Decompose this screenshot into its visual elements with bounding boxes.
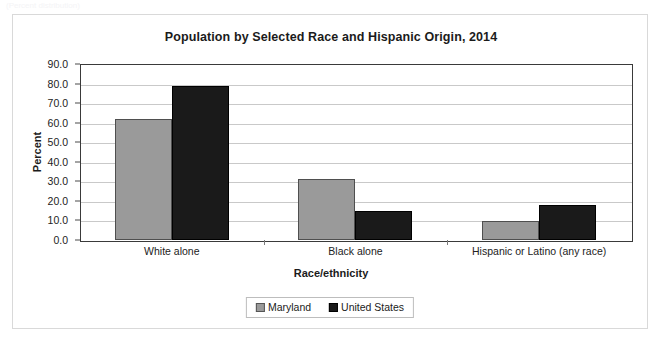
chart-card: Population by Selected Race and Hispanic… [12,14,648,329]
bar-maryland-black-alone[interactable] [298,179,355,240]
legend-swatch-united-states-icon [329,303,338,312]
y-axis-tick-labels: 90.080.070.060.050.040.030.020.010.00.0 [13,64,75,240]
chart-legend: Maryland United States [246,297,414,318]
y-axis-tick-label: 0.0 [53,234,68,246]
y-axis-tick-label: 60.0 [48,117,68,129]
bar-united-states-white-alone[interactable] [172,86,229,240]
x-axis-title: Race/ethnicity [13,267,649,279]
y-axis-tick-label: 70.0 [48,97,68,109]
x-axis-tick-label: Black alone [328,245,382,257]
legend-label-united-states: United States [341,301,404,313]
x-axis-tick-labels: White aloneBlack aloneHispanic or Latino… [80,245,631,261]
bars-layer [80,64,631,240]
bar-group [447,64,631,240]
legend-label-maryland: Maryland [268,301,311,313]
y-axis-tick-label: 40.0 [48,156,68,168]
bar-united-states-hispanic-or-latino-any-race[interactable] [539,205,596,240]
bar-maryland-hispanic-or-latino-any-race[interactable] [482,221,539,240]
y-axis-tick-label: 20.0 [48,195,68,207]
top-artifact-text: (Percent distribution) [0,0,662,12]
bar-maryland-white-alone[interactable] [115,119,172,240]
bar-group [264,64,448,240]
legend-item-maryland[interactable]: Maryland [256,301,311,313]
y-axis-tick-label: 10.0 [48,214,68,226]
legend-swatch-maryland-icon [256,303,265,312]
legend-item-united-states[interactable]: United States [329,301,404,313]
y-axis-tick-label: 90.0 [48,58,68,70]
bar-united-states-black-alone[interactable] [355,211,412,240]
y-axis-tick-label: 30.0 [48,175,68,187]
bar-group [80,64,264,240]
x-axis-tick-label: White alone [144,245,199,257]
chart-title: Population by Selected Race and Hispanic… [13,30,649,44]
x-axis-tick-label: Hispanic or Latino (any race) [472,245,606,257]
y-axis-tick-label: 50.0 [48,136,68,148]
y-axis-tick-label: 80.0 [48,78,68,90]
